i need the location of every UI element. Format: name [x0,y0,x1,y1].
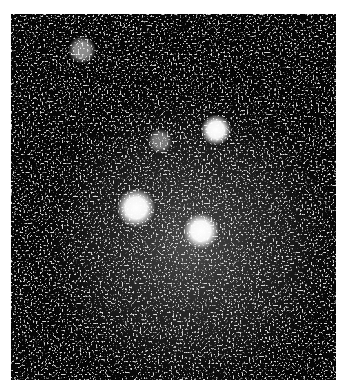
spot-upper-right [201,115,232,146]
spot-upper-middle-dim [147,128,172,153]
spot-center-right [183,213,219,249]
spot-center-left [116,188,155,227]
astronomical-image [11,14,336,380]
nebula-scene [11,14,336,380]
spot-top-left-faint [68,36,96,64]
